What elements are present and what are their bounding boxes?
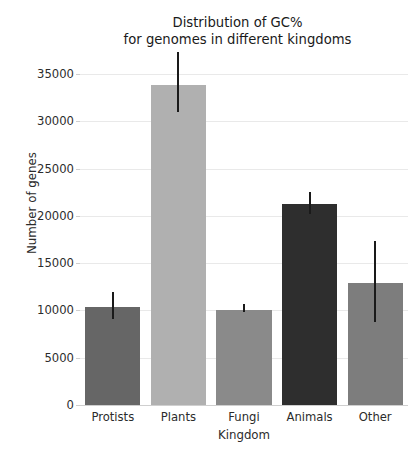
y-tick-mark: [76, 310, 80, 311]
y-axis-tick-labels: 05000100001500020000250003000035000: [8, 0, 74, 458]
bar-plants[interactable]: [151, 85, 206, 405]
y-tick-label: 35000: [12, 67, 74, 81]
y-tick-label: 25000: [12, 162, 74, 176]
bar-protists[interactable]: [85, 307, 140, 405]
y-tick-label: 0: [12, 398, 74, 412]
bar-group[interactable]: [348, 60, 403, 405]
chart-figure: Distribution of GC%for genomes in differ…: [0, 0, 418, 458]
chart-title-line-2: for genomes in different kingdoms: [75, 31, 400, 48]
x-tick-label-other: Other: [342, 410, 408, 424]
y-tick-label: 15000: [12, 256, 74, 270]
y-axis-title: Number of genes: [25, 128, 39, 278]
error-bar-plants: [177, 52, 179, 112]
error-bar-fungi: [243, 304, 245, 313]
bar-fungi[interactable]: [216, 310, 271, 405]
x-axis-baseline: [80, 405, 408, 406]
error-bar-protists: [112, 292, 114, 319]
bar-group[interactable]: [85, 60, 140, 405]
x-axis-title: Kingdom: [80, 428, 408, 442]
y-tick-mark: [76, 263, 80, 264]
bar-group[interactable]: [282, 60, 337, 405]
y-tick-label: 10000: [12, 303, 74, 317]
y-tick-mark: [76, 121, 80, 122]
chart-title: Distribution of GC%for genomes in differ…: [75, 14, 400, 48]
error-bar-animals: [309, 192, 311, 214]
y-tick-label: 5000: [12, 351, 74, 365]
y-tick-label: 20000: [12, 209, 74, 223]
x-tick-label-animals: Animals: [277, 410, 343, 424]
y-tick-mark: [76, 74, 80, 75]
y-tick-label: 30000: [12, 114, 74, 128]
y-tick-mark: [76, 216, 80, 217]
x-tick-label-plants: Plants: [146, 410, 212, 424]
chart-title-line-1: Distribution of GC%: [75, 14, 400, 31]
x-tick-label-protists: Protists: [80, 410, 146, 424]
plot-area: [80, 60, 408, 405]
x-tick-label-fungi: Fungi: [211, 410, 277, 424]
bar-animals[interactable]: [282, 204, 337, 405]
error-bar-other: [374, 241, 376, 321]
bar-group[interactable]: [151, 60, 206, 405]
y-tick-mark: [76, 169, 80, 170]
y-tick-mark: [76, 358, 80, 359]
y-tick-mark: [76, 405, 80, 406]
bar-group[interactable]: [216, 60, 271, 405]
